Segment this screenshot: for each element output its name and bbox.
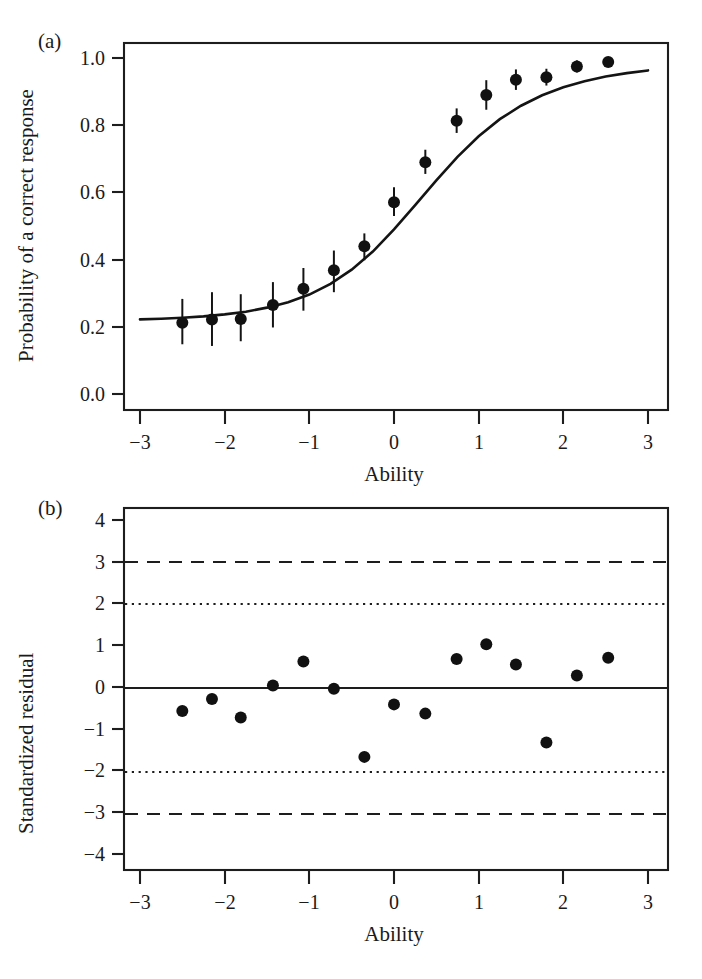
x-tick-neg3: −3 xyxy=(129,431,150,453)
x-tick-0: 0 xyxy=(389,891,399,913)
y-tick-neg3: −3 xyxy=(84,801,105,823)
x-tick-3: 3 xyxy=(643,431,653,453)
panel-b-label: (b) xyxy=(38,496,63,520)
x-tick-neg1: −1 xyxy=(298,891,319,913)
data-point xyxy=(267,299,279,311)
data-point xyxy=(419,156,431,168)
y-tick-0-8: 0.8 xyxy=(80,114,105,136)
residual-point xyxy=(540,737,552,749)
panel-b-x-ticklabels: −3 −2 −1 0 1 2 3 xyxy=(129,891,653,913)
residual-point xyxy=(267,679,279,691)
x-tick-neg1: −1 xyxy=(298,431,319,453)
x-tick-0: 0 xyxy=(389,431,399,453)
y-tick-0: 0 xyxy=(95,676,105,698)
data-point xyxy=(297,283,309,295)
y-tick-1-0: 1.0 xyxy=(80,47,105,69)
residual-point xyxy=(176,705,188,717)
residual-point xyxy=(297,656,309,668)
residual-point xyxy=(510,658,522,670)
y-tick-0-4: 0.4 xyxy=(80,249,105,271)
panel-a-y-ticks xyxy=(112,58,124,394)
data-point xyxy=(328,264,340,276)
residual-point xyxy=(328,683,340,695)
panel-a-ylabel: Probability of a correct response xyxy=(14,89,38,362)
panel-a-x-ticklabels: −3 −2 −1 0 1 2 3 xyxy=(129,431,653,453)
y-tick-0-6: 0.6 xyxy=(80,181,105,203)
residual-point xyxy=(602,652,614,664)
x-tick-2: 2 xyxy=(558,431,568,453)
panel-a-x-ticks xyxy=(140,410,648,424)
residual-point xyxy=(480,638,492,650)
x-tick-1: 1 xyxy=(474,431,484,453)
y-tick-0-2: 0.2 xyxy=(80,316,105,338)
data-point xyxy=(451,115,463,127)
panel-b-xlabel: Ability xyxy=(364,922,424,946)
residual-point xyxy=(571,669,583,681)
y-tick-neg1: −1 xyxy=(84,718,105,740)
y-tick-neg4: −4 xyxy=(84,843,105,865)
residual-point xyxy=(235,711,247,723)
panel-a-svg: (a) Probability of a correct response 1.… xyxy=(0,0,702,490)
y-tick-0-0: 0.0 xyxy=(80,383,105,405)
x-tick-neg2: −2 xyxy=(214,431,235,453)
data-point xyxy=(571,60,583,72)
x-tick-neg2: −2 xyxy=(214,891,235,913)
data-point xyxy=(480,89,492,101)
panel-a-datapoint-layer xyxy=(176,56,614,329)
panel-a-xlabel: Ability xyxy=(364,462,424,486)
data-point xyxy=(510,74,522,86)
panel-b-svg: (b) Standardized residual 4 3 2 1 xyxy=(0,489,702,979)
panel-b-x-ticks xyxy=(140,870,648,884)
y-tick-2: 2 xyxy=(95,592,105,614)
data-point xyxy=(388,196,400,208)
panel-b-ylabel: Standardized residual xyxy=(14,652,38,834)
panel-b: (b) Standardized residual 4 3 2 1 xyxy=(0,489,702,979)
data-point xyxy=(176,317,188,329)
panel-a: (a) Probability of a correct response 1.… xyxy=(0,0,702,490)
figure-container: (a) Probability of a correct response 1.… xyxy=(0,0,702,979)
panel-a-label: (a) xyxy=(38,29,61,53)
data-point xyxy=(602,56,614,68)
residual-point xyxy=(388,698,400,710)
residual-point xyxy=(419,708,431,720)
data-point xyxy=(235,313,247,325)
residual-point xyxy=(358,751,370,763)
x-tick-2: 2 xyxy=(558,891,568,913)
residual-point xyxy=(206,693,218,705)
y-tick-4: 4 xyxy=(95,509,105,531)
panel-a-y-ticklabels: 1.0 0.8 0.6 0.4 0.2 0.0 xyxy=(80,47,105,405)
panel-b-y-ticks xyxy=(112,520,124,854)
residual-point xyxy=(451,653,463,665)
data-point xyxy=(540,71,552,83)
x-tick-neg3: −3 xyxy=(129,891,150,913)
data-point xyxy=(206,313,218,325)
panel-b-y-ticklabels: 4 3 2 1 0 −1 −2 −3 −4 xyxy=(84,509,105,865)
y-tick-3: 3 xyxy=(95,551,105,573)
panel-b-datapoint-layer xyxy=(176,638,614,763)
y-tick-neg2: −2 xyxy=(84,759,105,781)
x-tick-1: 1 xyxy=(474,891,484,913)
x-tick-3: 3 xyxy=(643,891,653,913)
y-tick-1: 1 xyxy=(95,634,105,656)
panel-b-reference-line-layer xyxy=(125,562,667,814)
data-point xyxy=(358,240,370,252)
